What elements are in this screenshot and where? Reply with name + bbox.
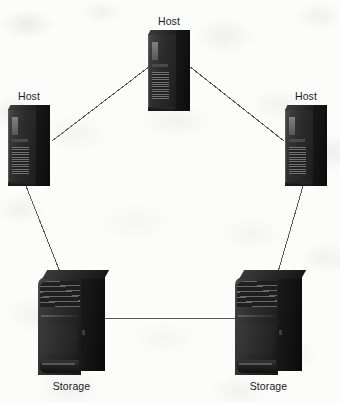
node-label-host-top: Host: [148, 15, 190, 27]
tower-drive-slot: [289, 117, 295, 135]
network-topology-diagram: Host Host Host: [0, 0, 340, 403]
storage-bezel-seam: [41, 315, 78, 317]
tower-top-face: [8, 105, 37, 110]
storage-status-led: [279, 330, 282, 335]
storage-side-panel: [278, 271, 302, 371]
node-host-left[interactable]: Host: [8, 105, 50, 186]
tower-side-panel: [35, 105, 50, 186]
storage-base-highlight: [239, 363, 272, 365]
tower-vent-grille: [12, 147, 29, 174]
storage-vent-ridges: [40, 281, 80, 307]
link-host-top-host-right: [189, 66, 284, 141]
storage-side-panel: [81, 271, 105, 371]
tower-drive-slot: [152, 42, 158, 60]
node-host-right[interactable]: Host: [285, 105, 327, 186]
tower-top-face: [148, 30, 177, 35]
tower-side-panel: [175, 30, 190, 111]
tower-vent-grille: [289, 147, 306, 174]
node-host-top[interactable]: Host: [148, 30, 190, 111]
storage-status-led: [82, 330, 85, 335]
tower-base: [285, 182, 312, 186]
storage-bezel-seam: [238, 315, 275, 317]
link-host-right-storage-right: [278, 186, 303, 272]
tower-base: [148, 107, 175, 111]
storage-drive-panel: [238, 324, 274, 354]
node-storage-right[interactable]: Storage: [235, 268, 302, 375]
storage-base-highlight: [42, 363, 75, 365]
link-host-top-host-left: [52, 66, 150, 141]
storage-drive-panel: [41, 324, 77, 354]
tower-drive-bay: [152, 64, 168, 67]
tower-base: [8, 182, 35, 186]
link-host-left-storage-left: [26, 186, 60, 272]
tower-drive-bay: [12, 139, 28, 142]
storage-base: [40, 360, 79, 373]
storage-top-face: [42, 270, 109, 279]
node-label-host-left: Host: [8, 90, 50, 102]
tower-vent-grille: [152, 72, 169, 99]
storage-base: [237, 360, 276, 373]
tower-drive-slot: [12, 117, 18, 135]
storage-top-face: [239, 270, 306, 279]
node-label-storage-right: Storage: [235, 380, 302, 392]
node-storage-left[interactable]: Storage: [38, 268, 105, 375]
tower-top-face: [285, 105, 314, 110]
storage-vent-ridges: [237, 281, 277, 307]
node-label-storage-left: Storage: [38, 380, 105, 392]
node-label-host-right: Host: [285, 90, 327, 102]
tower-drive-bay: [289, 139, 305, 142]
tower-side-panel: [312, 105, 327, 186]
